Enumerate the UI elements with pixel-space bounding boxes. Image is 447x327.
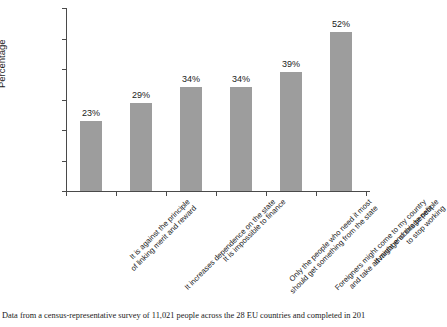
x-tickmark xyxy=(116,192,117,196)
x-tickmark xyxy=(366,192,367,196)
bar-value-label: 34% xyxy=(182,74,200,85)
bar-value-label: 34% xyxy=(232,74,250,85)
bar-value-label: 39% xyxy=(282,59,300,70)
x-category-label-1: It is against the principle of linking m… xyxy=(123,198,198,273)
x-category-label-2: It increases dependence on the state xyxy=(183,198,277,292)
x-tickmark xyxy=(316,192,317,196)
bar-5[interactable]: 39% xyxy=(280,72,302,191)
x-category-label-3: It is impossible to finance xyxy=(222,198,288,264)
x-tickmark xyxy=(216,192,217,196)
x-category-label-4: Only the people who need it most should … xyxy=(282,198,380,296)
bar-3[interactable]: 34% xyxy=(180,87,202,191)
bar-value-label: 52% xyxy=(332,19,350,30)
x-axis-line xyxy=(66,191,370,192)
y-axis-title: Percentage xyxy=(0,39,7,88)
bar-6[interactable]: 52% xyxy=(330,32,352,191)
bar-value-label: 23% xyxy=(82,108,100,119)
x-tickmark xyxy=(266,192,267,196)
chart-caption: Data from a census-representative survey… xyxy=(2,311,394,321)
bar-4[interactable]: 34% xyxy=(230,87,252,191)
plot-area: 23% 29% 34% 34% 39% 52% xyxy=(66,8,368,191)
x-tickmark xyxy=(66,192,67,196)
x-tickmark xyxy=(166,192,167,196)
bar-value-label: 29% xyxy=(132,90,150,101)
bar-1[interactable]: 23% xyxy=(80,121,102,191)
bar-2[interactable]: 29% xyxy=(130,103,152,191)
